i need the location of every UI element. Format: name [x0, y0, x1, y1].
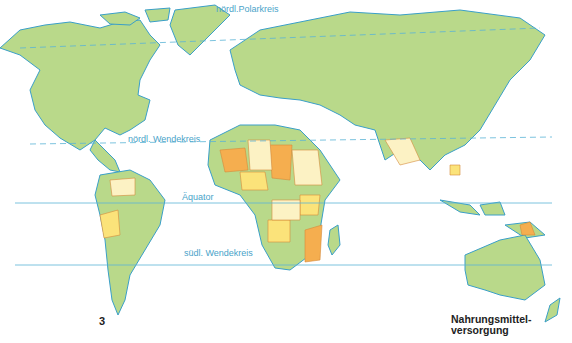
australia	[465, 235, 545, 300]
arctic-circle-label: nördl.Polarkreis	[216, 4, 279, 14]
tropic-capricorn-label: südl. Wendekreis	[184, 248, 253, 258]
map-title-line2: versorgung	[451, 325, 532, 336]
madagascar	[328, 225, 340, 255]
tropic-cancer-label: nördl. Wendekreis	[128, 134, 200, 144]
central-america	[90, 140, 120, 172]
new-zealand	[545, 298, 560, 322]
equator-label: Äquator	[182, 192, 214, 202]
map-title: Nahrungsmittel- versorgung	[451, 314, 532, 336]
map-canvas	[0, 0, 572, 343]
north-america	[0, 20, 160, 150]
map-number: 3	[99, 315, 105, 327]
world-map: nördl.Polarkreis nördl. Wendekreis Äquat…	[0, 0, 572, 343]
